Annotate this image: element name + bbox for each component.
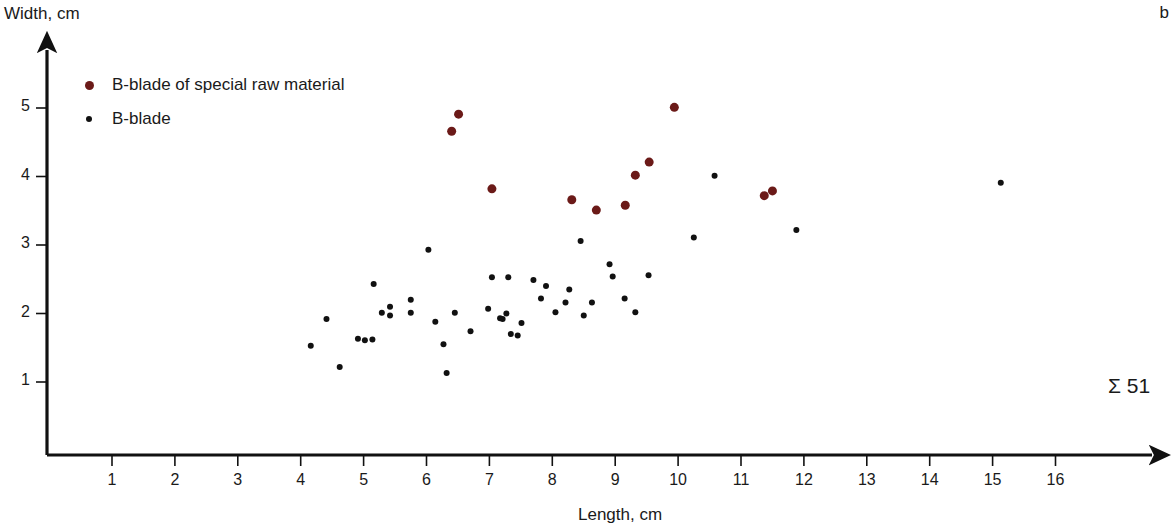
x-tick-label: 12 [789, 471, 819, 489]
scatter-plot-figure: Width, cm Length, cm b Σ 51 B-blade of s… [0, 0, 1175, 528]
data-point [592, 206, 601, 215]
plot-canvas [0, 0, 1175, 528]
data-point [308, 343, 314, 349]
data-point [581, 313, 587, 319]
y-tick-label: 3 [2, 234, 30, 252]
data-point [566, 287, 572, 293]
y-tick-label: 5 [2, 97, 30, 115]
data-point [670, 103, 679, 112]
data-point [500, 316, 506, 322]
data-point [447, 127, 456, 136]
data-point [362, 337, 368, 343]
data-point [793, 227, 799, 233]
x-tick-label: 5 [349, 471, 379, 489]
data-point [408, 310, 414, 316]
data-point [691, 234, 697, 240]
data-point [645, 158, 654, 167]
y-tick-label: 4 [2, 166, 30, 184]
data-point [622, 295, 628, 301]
y-tick-label: 1 [2, 371, 30, 389]
data-point [563, 300, 569, 306]
data-point [610, 274, 616, 280]
data-point [632, 309, 638, 315]
data-point [538, 295, 544, 301]
x-tick-label: 3 [223, 471, 253, 489]
data-point [337, 364, 343, 370]
data-point [621, 201, 630, 210]
data-point [432, 319, 438, 325]
data-point [515, 332, 521, 338]
data-point [631, 171, 640, 180]
axis-lines [47, 50, 1152, 455]
x-tick-label: 10 [663, 471, 693, 489]
data-point [387, 313, 393, 319]
data-points-b-blade [308, 173, 1004, 376]
data-point [567, 195, 576, 204]
data-point [607, 261, 613, 267]
data-point [543, 283, 549, 289]
data-points-b-blade-special [447, 103, 777, 215]
data-point [487, 184, 496, 193]
data-point [530, 277, 536, 283]
x-axis-ticks [112, 455, 1056, 466]
x-tick-label: 9 [600, 471, 630, 489]
data-point [379, 310, 385, 316]
data-point [712, 173, 718, 179]
y-axis-ticks [36, 108, 47, 382]
data-point [440, 341, 446, 347]
data-point [505, 274, 511, 280]
data-point [760, 191, 769, 200]
data-point [768, 186, 777, 195]
data-point [408, 297, 414, 303]
data-point [489, 274, 495, 280]
x-tick-label: 14 [915, 471, 945, 489]
x-tick-label: 7 [474, 471, 504, 489]
data-point [589, 300, 595, 306]
data-point [323, 316, 329, 322]
data-point [578, 238, 584, 244]
data-point [518, 320, 524, 326]
x-tick-label: 2 [160, 471, 190, 489]
data-point [452, 310, 458, 316]
data-point [444, 370, 450, 376]
x-tick-label: 13 [852, 471, 882, 489]
data-point [454, 110, 463, 119]
x-tick-label: 15 [978, 471, 1008, 489]
y-tick-label: 2 [2, 303, 30, 321]
data-point [371, 281, 377, 287]
data-point [503, 311, 509, 317]
x-tick-label: 1 [97, 471, 127, 489]
data-point [646, 272, 652, 278]
data-point [998, 180, 1004, 186]
x-tick-label: 11 [726, 471, 756, 489]
data-point [369, 337, 375, 343]
data-point [485, 306, 491, 312]
data-point [387, 304, 393, 310]
data-point [355, 336, 361, 342]
x-tick-label: 16 [1041, 471, 1071, 489]
data-point [468, 328, 474, 334]
data-point [508, 331, 514, 337]
x-tick-label: 4 [286, 471, 316, 489]
data-point [425, 247, 431, 253]
x-tick-label: 6 [412, 471, 442, 489]
data-point [552, 309, 558, 315]
x-tick-label: 8 [537, 471, 567, 489]
